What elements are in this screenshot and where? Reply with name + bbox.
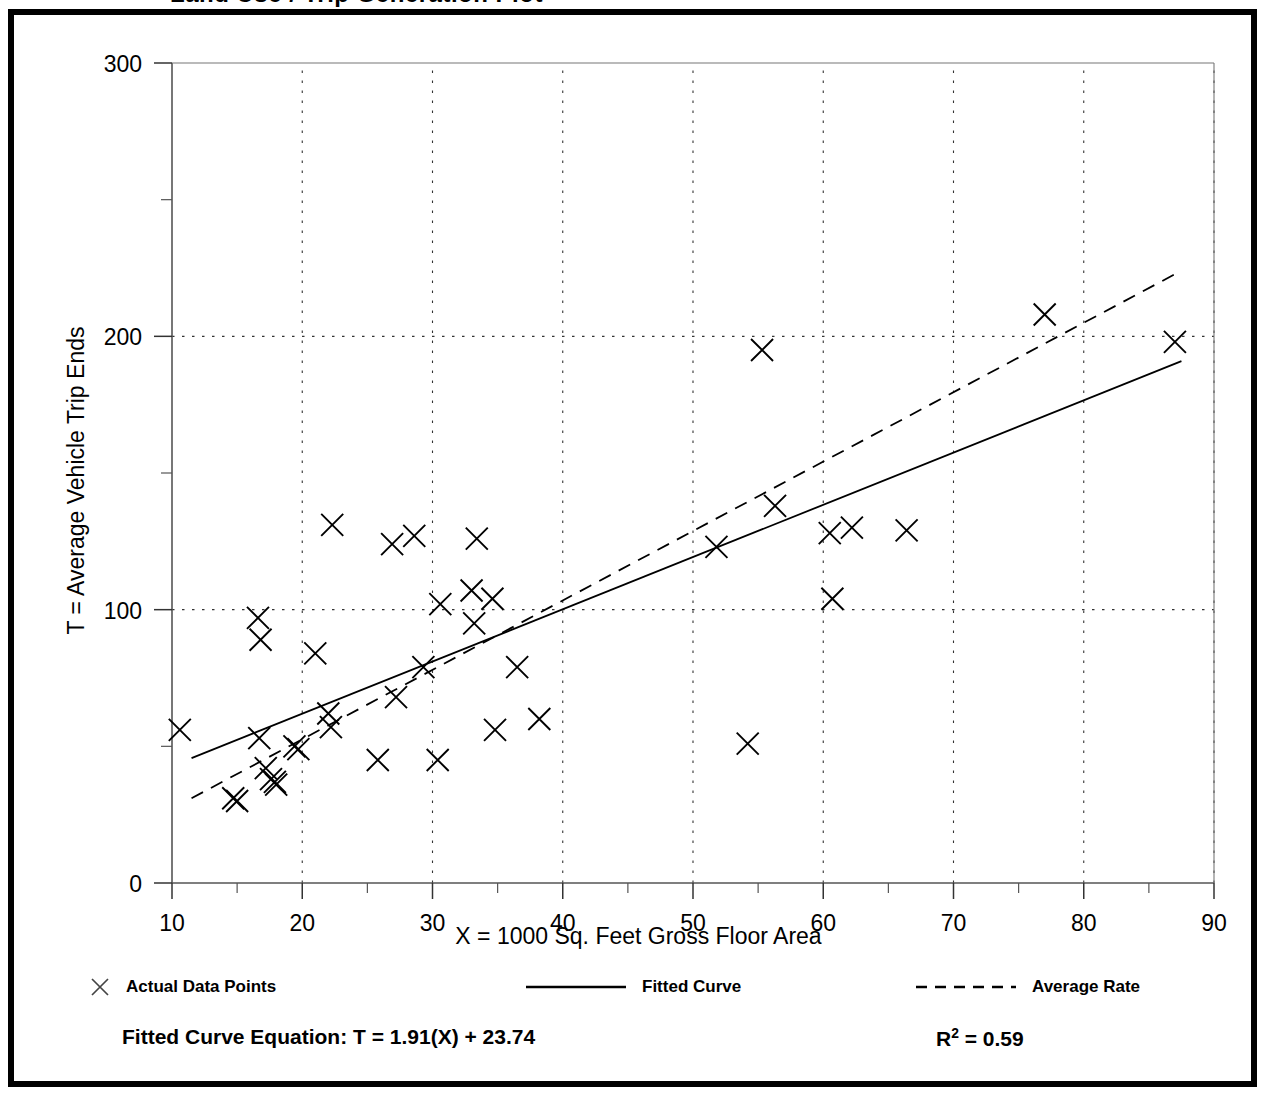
- grid-lines: [172, 63, 1214, 883]
- data-point-marker: [463, 612, 485, 634]
- data-point-marker: [461, 580, 483, 602]
- legend-item-average-rate: Average Rate: [914, 973, 1140, 1001]
- legend-item-fitted-curve: Fitted Curve: [524, 973, 741, 1001]
- r-squared-annotation: R2 = 0.59: [936, 1025, 1024, 1051]
- data-point-marker: [321, 514, 343, 536]
- y-tick-label: 200: [104, 324, 142, 350]
- data-point-marker: [320, 716, 342, 738]
- data-point-marker: [247, 607, 269, 629]
- data-point-marker: [466, 528, 488, 550]
- data-point-marker: [403, 525, 425, 547]
- legend-label-fitted-curve: Fitted Curve: [642, 977, 741, 997]
- r-squared-prefix: R: [936, 1027, 951, 1050]
- data-point-marker: [841, 517, 863, 539]
- solid-line-icon: [524, 980, 628, 994]
- legend: Actual Data Points Fitted Curve Average …: [14, 973, 1263, 1013]
- y-axis-title: T = Average Vehicle Trip Ends: [63, 181, 90, 781]
- data-point-marker: [304, 642, 326, 664]
- r-squared-value: = 0.59: [959, 1027, 1024, 1050]
- y-tick-label: 100: [104, 598, 142, 624]
- data-point-marker: [381, 533, 403, 555]
- data-point-marker: [528, 708, 550, 730]
- data-point-marker: [896, 519, 918, 541]
- data-point-marker: [427, 749, 449, 771]
- data-point-marker: [484, 719, 506, 741]
- data-point-marker: [705, 536, 727, 558]
- data-point-marker: [1164, 331, 1186, 353]
- data-point-markers: [169, 303, 1186, 812]
- data-point-marker: [737, 733, 759, 755]
- data-point-marker: [250, 629, 272, 651]
- data-point-marker: [367, 749, 389, 771]
- data-point-marker: [819, 522, 841, 544]
- y-tick-label: 300: [104, 51, 142, 77]
- dashed-line-icon: [914, 980, 1018, 994]
- legend-label-actual-data-points: Actual Data Points: [126, 977, 276, 997]
- data-point-marker: [751, 339, 773, 361]
- x-marker-icon: [88, 975, 112, 999]
- data-point-marker: [821, 588, 843, 610]
- data-point-marker: [764, 495, 786, 517]
- annotation-row: Fitted Curve Equation: T = 1.91(X) + 23.…: [14, 1025, 1263, 1065]
- data-point-marker: [429, 593, 451, 615]
- r-squared-exponent: 2: [951, 1025, 959, 1041]
- y-tick-label: 0: [129, 871, 142, 897]
- data-point-marker: [1034, 303, 1056, 325]
- y-tick-labels: 0100200300: [104, 51, 142, 897]
- legend-item-actual-data-points: Actual Data Points: [88, 973, 276, 1001]
- fitted-curve-equation: Fitted Curve Equation: T = 1.91(X) + 23.…: [122, 1025, 535, 1049]
- figure-frame: 102030405060708090 0100200300 T = Averag…: [8, 9, 1257, 1087]
- fitted-curve-line: [192, 361, 1182, 758]
- axis-ticks: [154, 63, 1214, 899]
- x-axis-title: X = 1000 Sq. Feet Gross Floor Area: [14, 923, 1263, 950]
- data-point-marker: [265, 774, 287, 796]
- data-point-marker: [506, 656, 528, 678]
- legend-label-average-rate: Average Rate: [1032, 977, 1140, 997]
- figure-title: Land Use / Trip Generation Plot: [170, 0, 543, 8]
- data-point-marker: [481, 588, 503, 610]
- data-point-marker: [412, 656, 434, 678]
